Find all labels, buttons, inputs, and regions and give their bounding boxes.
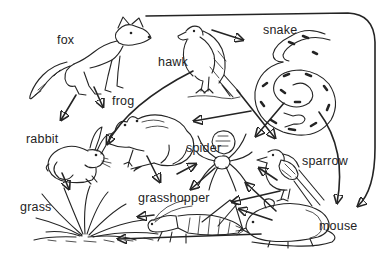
label-frog: frog bbox=[112, 95, 134, 108]
label-spider: spider bbox=[186, 142, 221, 155]
label-snake: snake bbox=[263, 24, 297, 37]
fox-illustration bbox=[26, 14, 154, 106]
label-fox: fox bbox=[57, 34, 74, 47]
food-web-diagram: fox hawk snake frog rabbit grass grassho… bbox=[0, 0, 391, 258]
label-rabbit: rabbit bbox=[26, 133, 58, 146]
label-hawk: hawk bbox=[158, 56, 188, 69]
spider-illustration bbox=[195, 127, 259, 193]
label-grasshopper: grasshopper bbox=[138, 192, 210, 205]
label-mouse: mouse bbox=[319, 220, 358, 233]
label-grass: grass bbox=[20, 201, 52, 214]
label-sparrow: sparrow bbox=[302, 155, 348, 168]
snake-illustration bbox=[243, 28, 343, 142]
